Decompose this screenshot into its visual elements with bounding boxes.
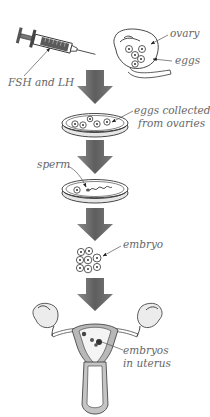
ivf-diagram: FSH and LH ovary eggs	[0, 0, 210, 417]
syringe-icon	[16, 26, 98, 63]
step-arrow-1	[77, 70, 113, 104]
petri-dish-eggs-icon	[62, 114, 128, 138]
embryo-icon	[76, 247, 101, 272]
ovary-icon	[114, 29, 171, 78]
eggs-leader	[153, 59, 172, 61]
step-arrow-2	[77, 140, 113, 174]
sperm-label: sperm	[37, 158, 70, 170]
step-arrow-4	[77, 278, 113, 311]
eggs-collected-label-2: from ovaries	[137, 117, 206, 129]
embryos-label-1: embryos	[123, 344, 169, 356]
fsh-lh-label: FSH and LH	[7, 76, 75, 88]
fsh-lh-leader	[24, 48, 50, 76]
petri-dish-sperm-icon	[62, 180, 128, 204]
embryos-label-2: in uterus	[123, 357, 171, 369]
ovary-label: ovary	[170, 27, 201, 39]
step-arrow-3	[77, 208, 113, 241]
embryo-label: embryo	[123, 238, 163, 250]
embryo-leader	[103, 246, 121, 256]
eggs-label: eggs	[175, 54, 201, 66]
eggs-collected-label-1: eggs collected	[134, 104, 210, 116]
